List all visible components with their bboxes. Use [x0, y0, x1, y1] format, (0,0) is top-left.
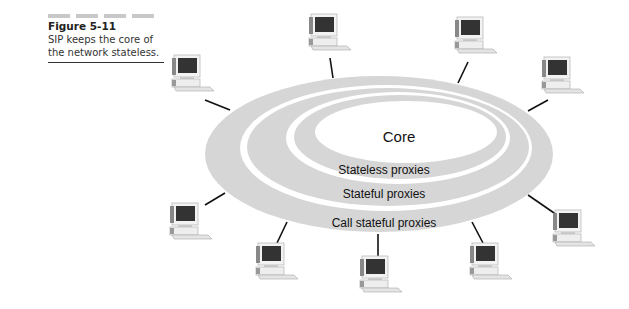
ring-label-stateful: Stateful proxies [343, 187, 426, 201]
ring-label-call-stateful: Call stateful proxies [332, 216, 437, 230]
computer-icon [470, 243, 512, 279]
computer-icon [170, 203, 212, 239]
computer-icon [256, 243, 298, 279]
ring-label-stateless: Stateless proxies [338, 163, 429, 177]
computer-icon [172, 55, 214, 91]
computer-icon [309, 14, 351, 50]
computer-icon [360, 256, 402, 292]
network-diagram [0, 0, 629, 309]
core-label: Core [383, 128, 416, 145]
computer-icon [553, 210, 595, 246]
computer-icon [542, 57, 584, 93]
computer-icon [455, 17, 497, 53]
